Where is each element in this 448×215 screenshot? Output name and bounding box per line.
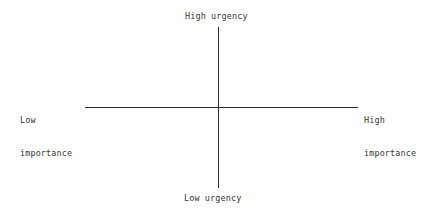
axis-label-low-urgency: Low urgency (184, 193, 241, 204)
axis-label-high-urgency: High urgency (185, 11, 248, 22)
axis-label-high-importance-line2: importance (364, 148, 416, 159)
axis-label-low-importance: Low importance (20, 93, 72, 181)
axis-label-low-importance-line2: importance (20, 148, 72, 159)
axis-label-high-importance: High importance (364, 93, 416, 181)
horizontal-axis-importance (85, 107, 358, 108)
urgency-importance-matrix: High urgency Low urgency Low importance … (0, 0, 448, 215)
axis-label-high-importance-line1: High (364, 115, 416, 126)
axis-label-low-importance-line1: Low (20, 115, 72, 126)
